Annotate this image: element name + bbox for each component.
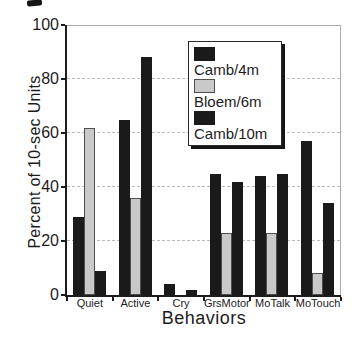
bar-camb-4m-active <box>119 120 130 296</box>
legend-label-camb-4m: Camb/4m <box>194 62 276 77</box>
y-tick-label-100: 100 <box>0 16 59 34</box>
legend-swatch-camb-10m <box>194 111 215 125</box>
legend-entry-camb-10m: Camb/10m <box>194 111 276 141</box>
y-tick-label-0: 0 <box>0 286 59 304</box>
bar-camb-4m-motalk <box>255 176 266 295</box>
bar-group-quiet <box>67 128 113 295</box>
bar-camb-10m-active <box>141 57 152 295</box>
y-tick-label-80: 80 <box>0 70 59 88</box>
y-axis-line <box>65 25 67 297</box>
bar-camb-4m-motouch <box>301 141 312 295</box>
legend-entry-bloem-6m: Bloem/6m <box>194 79 276 109</box>
y-tick-label-20: 20 <box>0 232 59 250</box>
bar-bloem-6m-grsmotor <box>221 233 232 295</box>
y-tick-mark-80 <box>61 78 65 80</box>
bar-camb-4m-cry <box>164 284 175 295</box>
y-tick-label-60: 60 <box>0 124 59 142</box>
x-axis-title: Behaviors <box>67 308 341 329</box>
y-tick-mark-100 <box>61 24 65 26</box>
legend-label-bloem-6m: Bloem/6m <box>194 94 276 109</box>
bar-camb-10m-grsmotor <box>232 182 243 295</box>
bar-group-motalk <box>249 174 295 296</box>
legend-label-camb-10m: Camb/10m <box>194 126 276 141</box>
bar-chart-figure: Percent of 10-sec Units 020406080100 Qui… <box>0 0 359 339</box>
bar-camb-10m-quiet <box>95 271 106 295</box>
bar-camb-10m-motouch <box>323 203 334 295</box>
bar-bloem-6m-quiet <box>84 128 95 295</box>
bar-group-motouch <box>295 141 341 295</box>
bar-camb-4m-grsmotor <box>210 174 221 296</box>
y-tick-label-40: 40 <box>0 178 59 196</box>
bar-group-cry <box>158 284 204 295</box>
bar-bloem-6m-active <box>130 198 141 295</box>
legend-swatch-bloem-6m <box>194 79 215 93</box>
legend-entry-camb-4m: Camb/4m <box>194 47 276 77</box>
legend: Camb/4mBloem/6mCamb/10m <box>188 41 282 146</box>
scan-artifact-mark <box>27 0 43 7</box>
bar-group-grsmotor <box>204 174 250 296</box>
bar-camb-4m-quiet <box>73 217 84 295</box>
bar-camb-10m-motalk <box>277 174 288 296</box>
y-tick-mark-60 <box>61 132 65 134</box>
bar-bloem-6m-motouch <box>312 273 323 295</box>
bar-bloem-6m-motalk <box>266 233 277 295</box>
y-tick-mark-40 <box>61 186 65 188</box>
bar-group-active <box>113 57 159 295</box>
y-tick-mark-0 <box>61 294 65 296</box>
legend-swatch-camb-4m <box>194 47 215 61</box>
y-tick-mark-20 <box>61 240 65 242</box>
y-axis-title: Percent of 10-sec Units <box>26 67 46 257</box>
